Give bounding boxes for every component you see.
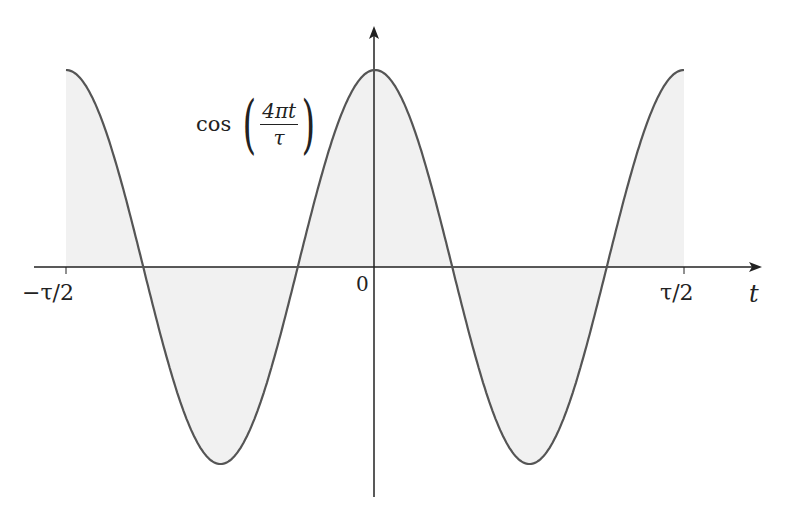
chart-canvas: −τ/2 0 τ/2 t cos ( 4πt τ ) [0,0,795,510]
cosine-plot [0,0,795,510]
left-paren: ( [243,92,257,156]
function-label: cos ( 4πt τ ) [196,92,321,156]
fraction: 4πt τ [260,98,298,151]
fraction-numerator: 4πt [260,98,298,125]
function-name: cos [196,112,231,136]
fraction-denominator: τ [274,125,285,151]
right-paren: ) [302,92,316,156]
tick-label-left: −τ/2 [22,280,74,305]
x-axis-label: t [749,280,759,308]
tick-label-right: τ/2 [660,280,694,305]
tick-label-origin: 0 [356,272,369,296]
